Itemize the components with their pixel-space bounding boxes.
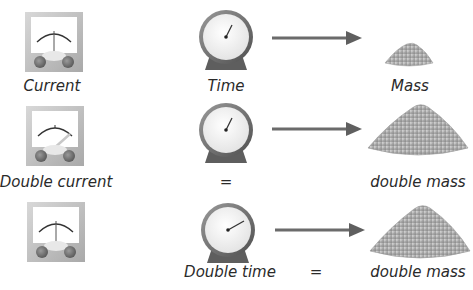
current-label: Current (24, 77, 81, 95)
arrow-right-icon (275, 222, 365, 238)
clock-icon (199, 201, 257, 263)
double-time-label: Double time (184, 263, 276, 281)
clock-icon (197, 101, 255, 163)
ammeter-icon (25, 12, 83, 72)
time-label: Time (207, 77, 244, 95)
powder-mound-icon (366, 102, 470, 158)
powder-mound-icon (383, 42, 435, 68)
powder-mound-icon (368, 203, 472, 261)
ammeter-icon (27, 202, 85, 262)
double-mass-label: double mass (370, 173, 465, 191)
arrow-right-icon (272, 30, 362, 46)
equals-sign: = (220, 173, 233, 191)
double-mass-label: double mass (370, 263, 465, 281)
ammeter-icon (26, 106, 84, 166)
mass-label: Mass (391, 77, 429, 95)
equals-sign: = (310, 263, 323, 281)
arrow-right-icon (272, 121, 362, 137)
clock-icon (197, 8, 255, 70)
double-current-label: Double current (0, 173, 112, 191)
